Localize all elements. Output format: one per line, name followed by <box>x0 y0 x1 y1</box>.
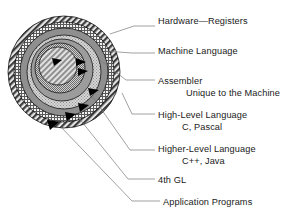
leader-apps <box>60 126 160 201</box>
label-4th-gl-text: 4th GL <box>158 175 186 185</box>
layered-architecture-diagram <box>0 0 283 214</box>
label-hardware-text: Hardware—Registers <box>158 16 248 26</box>
label-application-programs: Application Programs <box>163 197 252 209</box>
label-assembler-text: Assembler <box>158 76 202 86</box>
ring-hardware-registers[interactable] <box>39 47 77 85</box>
label-high-level-subtext: C, Pascal <box>158 122 247 134</box>
label-4th-gl: 4th GL <box>158 175 186 187</box>
label-assembler: Assembler Unique to the Machine <box>158 76 280 99</box>
label-higher-level-language: Higher-Level Language C++, Java <box>158 144 256 167</box>
label-high-level-language: High-Level Language C, Pascal <box>158 110 247 133</box>
label-machine-language: Machine Language <box>158 46 238 58</box>
onion-rings <box>8 16 120 128</box>
leader-hardware <box>110 26 155 34</box>
diagram-page: Hardware—Registers Machine Language Asse… <box>0 0 283 214</box>
leader-4th-gl <box>78 117 155 179</box>
label-higher-level-text: Higher-Level Language <box>158 144 256 154</box>
leader-high-level <box>122 93 155 114</box>
label-higher-level-subtext: C++, Java <box>158 156 256 168</box>
label-machine-text: Machine Language <box>158 46 238 56</box>
label-hardware-registers: Hardware—Registers <box>158 16 248 28</box>
label-application-programs-text: Application Programs <box>163 197 252 207</box>
label-high-level-text: High-Level Language <box>158 110 247 120</box>
label-assembler-subtext: Unique to the Machine <box>158 88 280 100</box>
